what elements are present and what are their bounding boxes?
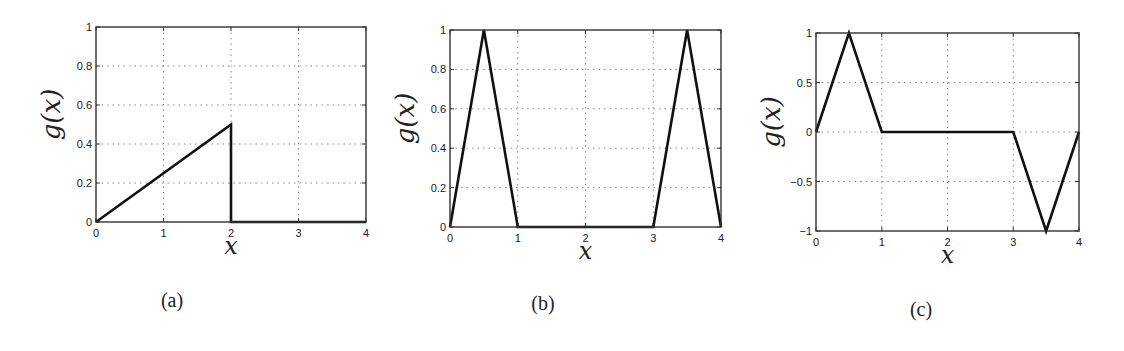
x-tick-label: 1 <box>879 236 885 248</box>
y-tick-label: 0.4 <box>77 138 92 150</box>
y-tick-label: 0.5 <box>797 77 812 89</box>
figure-caption: (a) <box>161 289 183 312</box>
y-tick-label: 0.6 <box>77 99 92 111</box>
y-tick-label: 0.6 <box>431 103 446 115</box>
y-tick-label: 0.2 <box>77 177 92 189</box>
x-axis-label: x <box>941 241 955 269</box>
chart-panel-c: 01234−1−0.500.51xg(x)(c) <box>756 27 1082 321</box>
chart-panel-a: 0123400.20.40.60.81xg(x)(a) <box>36 21 369 312</box>
figure-caption: (c) <box>910 298 932 321</box>
y-tick-label: 0.2 <box>431 182 446 194</box>
x-tick-label: 1 <box>515 232 521 244</box>
y-tick-label: 0 <box>806 126 812 138</box>
y-tick-label: 0.8 <box>431 63 446 75</box>
y-axis-label: g(x) <box>756 96 786 148</box>
y-tick-label: −0.5 <box>790 176 812 188</box>
figure: 0123400.20.40.60.81xg(x)(a)0123400.20.40… <box>0 0 1124 351</box>
x-tick-label: 3 <box>650 232 656 244</box>
y-tick-label: 1 <box>806 27 812 39</box>
y-axis-label: g(x) <box>390 93 420 145</box>
x-tick-label: 0 <box>813 236 819 248</box>
x-tick-label: 0 <box>93 227 99 239</box>
y-tick-label: 0 <box>86 216 92 228</box>
x-tick-label: 4 <box>1076 236 1082 248</box>
data-series-line <box>96 125 366 223</box>
y-tick-label: 0.4 <box>431 142 446 154</box>
x-tick-label: 4 <box>363 227 369 239</box>
x-tick-label: 3 <box>1010 236 1016 248</box>
x-tick-label: 1 <box>160 227 166 239</box>
figure-caption: (b) <box>531 292 554 315</box>
data-series-line <box>450 30 721 227</box>
y-tick-label: 0.8 <box>77 60 92 72</box>
x-axis-label: x <box>224 232 238 260</box>
y-tick-label: 1 <box>440 24 446 36</box>
x-tick-label: 4 <box>718 232 724 244</box>
x-tick-label: 0 <box>447 232 453 244</box>
chart-panel-b: 0123400.20.40.60.81xg(x)(b) <box>390 24 724 315</box>
y-tick-label: 1 <box>86 21 92 33</box>
x-axis-label: x <box>579 237 593 265</box>
y-axis-label: g(x) <box>36 89 66 141</box>
axes-box <box>450 30 721 227</box>
y-tick-label: 0 <box>440 221 446 233</box>
x-tick-label: 3 <box>295 227 301 239</box>
y-tick-label: −1 <box>799 225 812 237</box>
